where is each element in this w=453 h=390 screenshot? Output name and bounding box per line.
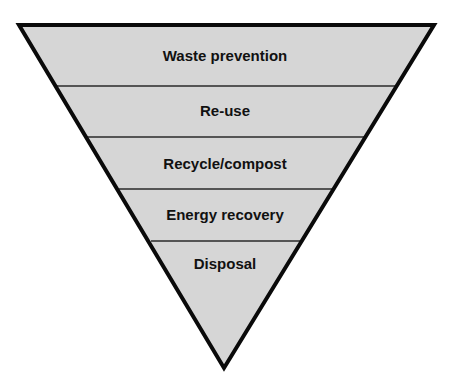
tier-label-recycle-compost: Recycle/compost [163,155,286,172]
tier-label-disposal: Disposal [194,255,257,272]
tier-label-energy-recovery: Energy recovery [166,206,284,223]
tier-label-waste-prevention: Waste prevention [163,47,287,64]
tier-label-re-use: Re-use [200,102,250,119]
pyramid-fill [19,25,434,368]
waste-hierarchy-pyramid: Waste prevention Re-use Recycle/compost … [0,0,453,390]
